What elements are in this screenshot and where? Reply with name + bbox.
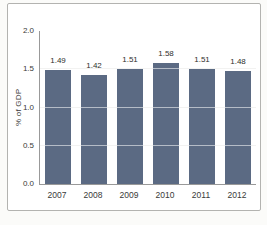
x-axis-tick-labels: 200720082009201020112012 bbox=[39, 190, 255, 200]
y-tick-label: 0.0 bbox=[8, 179, 34, 188]
bar-value-label: 1.42 bbox=[76, 61, 112, 70]
x-tick-label: 2007 bbox=[39, 190, 75, 200]
bar-slot: 1.51 bbox=[184, 31, 220, 184]
bar-slot: 1.48 bbox=[220, 31, 256, 184]
bar-value-label: 1.51 bbox=[184, 55, 220, 64]
plot-area: 1.491.421.511.581.511.48 bbox=[39, 31, 256, 185]
bar bbox=[81, 75, 107, 184]
gridline bbox=[40, 145, 256, 146]
gridline bbox=[40, 107, 256, 108]
chart-figure: % of GDP 0.00.51.01.52.0 1.491.421.511.5… bbox=[0, 0, 267, 225]
x-tick-label: 2008 bbox=[75, 190, 111, 200]
bar-value-label: 1.49 bbox=[40, 56, 76, 65]
bar bbox=[225, 71, 251, 184]
y-tick-label: 2.0 bbox=[8, 26, 34, 35]
x-tick-label: 2009 bbox=[111, 190, 147, 200]
y-tick-label: 0.5 bbox=[8, 141, 34, 150]
x-tick-label: 2010 bbox=[147, 190, 183, 200]
bar-slot: 1.42 bbox=[76, 31, 112, 184]
gridline bbox=[40, 68, 256, 69]
bar-group: 1.491.421.511.581.511.48 bbox=[40, 31, 256, 184]
x-tick-label: 2011 bbox=[183, 190, 219, 200]
y-tick-label: 1.5 bbox=[8, 64, 34, 73]
y-tick-label: 1.0 bbox=[8, 103, 34, 112]
bar-slot: 1.58 bbox=[148, 31, 184, 184]
bar bbox=[117, 69, 143, 185]
bar bbox=[189, 69, 215, 185]
chart-card: % of GDP 0.00.51.01.52.0 1.491.421.511.5… bbox=[7, 3, 261, 211]
bar-value-label: 1.48 bbox=[220, 57, 256, 66]
bar bbox=[153, 63, 179, 184]
bar bbox=[45, 70, 71, 184]
bar-value-label: 1.51 bbox=[112, 55, 148, 64]
bar-slot: 1.49 bbox=[40, 31, 76, 184]
bar-value-label: 1.58 bbox=[148, 49, 184, 58]
x-tick-label: 2012 bbox=[219, 190, 255, 200]
bar-slot: 1.51 bbox=[112, 31, 148, 184]
